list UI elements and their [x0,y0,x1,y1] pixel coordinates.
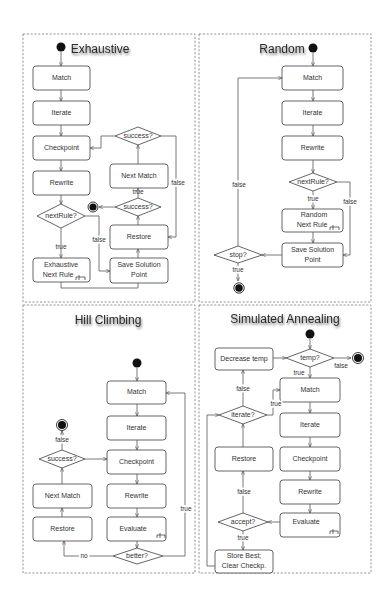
exhaustive-title: Exhaustive [71,42,130,56]
edge-label-false: false [55,436,69,443]
exhaustive-next-rule-label-1: Exhaustive [44,261,78,268]
evaluate-label: Evaluate [292,518,319,525]
checkpoint-label: Checkpoint [44,144,79,152]
simulated-annealing-title: Simulated Annealing [230,312,339,326]
edge-label-true: true [270,400,282,407]
hill-climbing-title: Hill Climbing [75,313,142,327]
success-label: success? [47,455,76,462]
save-solution-label-1: Save Solution [291,246,334,253]
random-next-rule-label-2: Next Rule [297,221,328,228]
next-rule-label: nextRule? [297,178,329,185]
next-match-label: Next Match [45,492,81,499]
iterate-label: Iterate [52,109,72,116]
random-next-rule-label-1: Random [301,211,328,218]
match-label: Match [303,74,322,81]
stop-label: stop? [229,251,246,259]
iterate-label: Iterate [303,109,323,116]
match-label: Match [300,386,319,393]
restore-label: Restore [50,525,75,532]
rewrite-label: Rewrite [125,492,149,499]
better-label: better? [126,552,148,559]
edge-label-false: false [171,179,185,186]
store-best-label-1: Store Best; [227,552,262,559]
edge-label-true: true [237,534,249,541]
strategy-diagram: Exhaustive Match Iterate Checkpoint Rewr… [0,0,389,598]
edge-label-false: false [334,362,348,369]
save-solution-label-2: Point [131,271,147,278]
random-quadrant: Random Match Iterate Rewrite nextRule? t… [214,42,357,293]
edge-label-true: true [180,505,192,512]
save-solution-label-2: Point [305,256,321,263]
rewrite-label: Rewrite [301,144,325,151]
edge-label-false: false [232,181,246,188]
edge-label-false: false [236,385,250,392]
edge-label-true: true [55,243,67,250]
exhaustive-next-rule-label-2: Next Rule [43,271,74,278]
edge-label-true: true [307,195,319,202]
decrease-temp-label: Decrease temp [220,355,268,363]
iterate-decision-label: iterate? [231,411,254,418]
simulated-annealing-quadrant: Simulated Annealing temp? false true Dec… [207,312,364,573]
store-best-label-2: Clear Checkp. [222,562,266,570]
rewrite-label: Rewrite [50,179,74,186]
success-upper-label: success? [123,132,152,139]
edge-label-true: true [132,188,144,195]
edge-label-false: false [92,236,106,243]
start-node-icon [306,330,315,339]
iterate-label: Iterate [127,424,147,431]
temp-label: temp? [300,354,320,362]
edge-label-true: true [293,369,305,376]
success-lower-label: success? [123,203,152,210]
edge-label-false: false [237,488,251,495]
iterate-label: Iterate [300,421,320,428]
next-match-label: Next Match [121,172,157,179]
edge-label-true: true [232,266,244,273]
start-node-icon [57,43,66,52]
random-title: Random [259,42,304,56]
start-node-icon [309,44,318,53]
checkpoint-label: Checkpoint [119,458,154,466]
edge-label-false: false [343,198,357,205]
start-node-icon [133,359,142,368]
match-label: Match [127,388,146,395]
save-solution-label-1: Save Solution [117,261,160,268]
edge-label-no: no [80,552,88,559]
evaluate-label: Evaluate [119,525,146,532]
checkpoint-label: Checkpoint [292,455,327,463]
next-rule-label: nextRule? [45,212,77,219]
match-label: Match [52,74,71,81]
accept-label: accept? [231,518,256,526]
rewrite-label: Rewrite [298,488,322,495]
evaluate-node [280,513,340,537]
restore-label: Restore [127,233,152,240]
hill-climbing-quadrant: Hill Climbing Match Iterate Checkpoint R… [33,313,192,564]
exhaustive-quadrant: Exhaustive Match Iterate Checkpoint Rewr… [33,42,185,288]
restore-label: Restore [232,455,257,462]
